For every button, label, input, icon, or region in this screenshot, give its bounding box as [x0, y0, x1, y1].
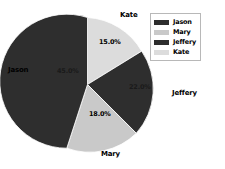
legend-label-mary: Mary: [173, 28, 191, 36]
legend-label-kate: Kate: [173, 48, 189, 56]
slice-label-mary: Mary: [101, 150, 120, 158]
slice-label-kate: Kate: [120, 11, 137, 19]
slice-percent-kate: 15.0%: [99, 38, 121, 46]
chart-legend: Jason Mary Jeffery Kate: [150, 13, 201, 61]
slice-percent-jeffery: 22.0%: [129, 83, 151, 91]
legend-item-jason[interactable]: Jason: [154, 17, 196, 27]
legend-item-kate[interactable]: Kate: [154, 47, 196, 57]
legend-item-mary[interactable]: Mary: [154, 27, 196, 37]
slice-percent-jason: 45.0%: [57, 67, 79, 75]
slice-percent-mary: 18.0%: [89, 110, 111, 118]
legend-swatch-icon-mary: [154, 30, 169, 35]
legend-swatch-icon-kate: [154, 50, 169, 55]
legend-swatch-icon-jeffery: [154, 40, 169, 45]
slice-label-jeffery: Jeffery: [172, 89, 197, 97]
legend-label-jeffery: Jeffery: [173, 38, 196, 46]
slice-label-jason: Jason: [8, 66, 28, 74]
legend-label-jason: Jason: [173, 18, 192, 26]
legend-item-jeffery[interactable]: Jeffery: [154, 37, 196, 47]
legend-swatch-icon-jason: [154, 20, 169, 25]
pie-chart-figure: Jason Kate Jeffery Mary 45.0% 22.0% 18.0…: [0, 0, 225, 169]
